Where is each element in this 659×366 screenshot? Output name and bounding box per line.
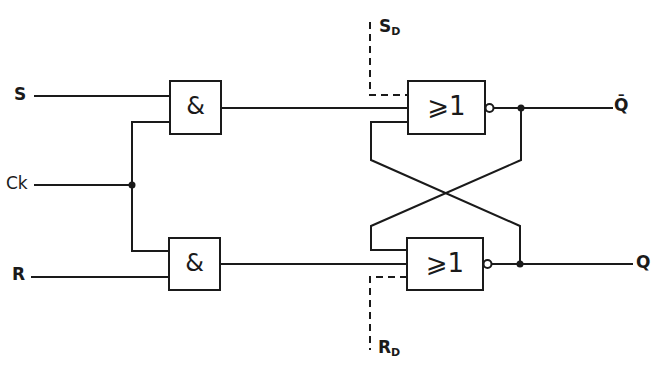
rd-label-main: R — [378, 337, 391, 357]
ck-to-bottom-and-wire — [132, 185, 169, 251]
sd-label: SD — [379, 18, 400, 37]
circuit-diagram — [0, 0, 659, 366]
qbar-output-label: Q̄ — [614, 97, 628, 114]
ck-junction-dot — [129, 182, 136, 189]
and-bottom-symbol: & — [169, 251, 220, 275]
sd-label-subscript: D — [391, 25, 400, 38]
nor-top-symbol: ⩾1 — [408, 93, 485, 119]
rd-label-subscript: D — [391, 346, 400, 359]
nor-bottom-inversion-bubble — [484, 260, 492, 268]
s-input-label: S — [14, 86, 26, 103]
and-top-symbol: & — [170, 94, 221, 118]
sd-label-main: S — [379, 16, 391, 36]
rd-label: RD — [378, 339, 400, 358]
q-output-label: Q — [636, 254, 650, 271]
ck-to-top-and-wire — [132, 122, 170, 185]
r-input-label: R — [12, 266, 25, 283]
ck-input-label: Ck — [6, 175, 28, 192]
nor-bottom-symbol: ⩾1 — [407, 250, 483, 276]
nor-top-inversion-bubble — [486, 104, 494, 112]
